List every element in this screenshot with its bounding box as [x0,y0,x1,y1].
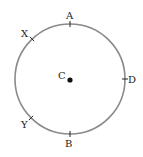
point-Y-label: Y [20,119,28,130]
center-point-dot [67,77,72,82]
point-B-label: B [65,138,72,149]
center-label: C [58,70,66,81]
circle-diagram: C A B D X Y [0,0,143,157]
point-A-label: A [65,10,74,21]
point-Y: Y [20,116,33,130]
point-D-label: D [128,74,136,85]
point-X-label: X [21,28,29,39]
point-X: X [21,28,34,41]
